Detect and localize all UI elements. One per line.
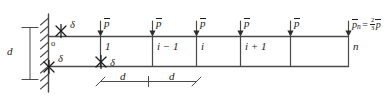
load-2-label: p xyxy=(156,17,162,29)
load-1-label: p xyxy=(104,17,110,29)
end-load-symbol: p xyxy=(352,19,357,30)
cell-i+1-label: i + 1 xyxy=(245,41,266,52)
delta-bottom-wall-label: δ xyxy=(58,54,63,65)
end-load-subscript: n xyxy=(357,22,361,31)
load-2-symbol: p xyxy=(156,17,162,29)
load-5-label: p xyxy=(294,17,300,29)
height-dimension-label: d xyxy=(7,46,13,57)
frame-chords xyxy=(49,37,349,67)
delta-bottom-node1-label: δ xyxy=(110,58,115,69)
span-dimension-1-label: d xyxy=(120,71,126,82)
frame-verticals xyxy=(101,37,349,67)
cell-i-1-label: i − 1 xyxy=(157,41,178,52)
origin-label: o xyxy=(51,39,55,48)
span-dimension-line xyxy=(96,77,201,87)
height-dimension-d xyxy=(22,28,38,80)
cell-i-label: i xyxy=(201,41,204,52)
delta-marker-top-wall xyxy=(56,25,66,38)
span-dimension-2-label: d xyxy=(169,71,175,82)
load-4-label: p xyxy=(244,17,250,29)
load-arrow-1 xyxy=(97,21,103,37)
end-load-denominator: 3 xyxy=(370,25,375,32)
structural-frame-figure: d o δ δ δ p p p p p pn=23p 1 i − 1 i i +… xyxy=(0,0,386,101)
load-4-symbol: p xyxy=(244,17,250,29)
figure-linework xyxy=(0,0,386,101)
cell-n-label: n xyxy=(353,41,359,52)
load-3-symbol: p xyxy=(200,17,206,29)
load-arrows xyxy=(97,21,351,37)
load-arrow-n xyxy=(345,21,351,37)
load-arrow-5 xyxy=(287,21,293,37)
load-arrow-4 xyxy=(237,21,243,37)
load-1-symbol: p xyxy=(104,17,110,29)
end-load-factor-symbol: p xyxy=(376,19,381,30)
load-5-symbol: p xyxy=(294,17,300,29)
fixed-wall xyxy=(41,14,49,92)
end-load-equals: = xyxy=(362,19,368,30)
delta-top-wall-label: δ xyxy=(70,20,75,31)
load-arrow-3 xyxy=(193,21,199,37)
cell-1-label: 1 xyxy=(105,41,111,52)
end-load-label: pn=23p xyxy=(352,17,381,32)
load-arrow-2 xyxy=(149,21,155,37)
load-3-label: p xyxy=(200,17,206,29)
